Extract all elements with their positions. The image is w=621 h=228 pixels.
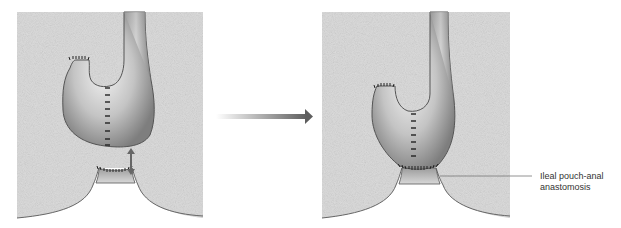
label-line-1: Ileal pouch-anal xyxy=(540,171,604,182)
arrow-right-icon xyxy=(216,109,313,124)
anastomosis-label: Ileal pouch-anal anastomosis xyxy=(540,171,604,193)
label-line-2: anastomosis xyxy=(540,182,604,193)
diagram-canvas xyxy=(0,0,621,228)
anal-canal xyxy=(399,168,440,184)
panel-before xyxy=(17,12,203,218)
panel-after xyxy=(322,12,532,218)
suture-line-pouch xyxy=(411,114,416,156)
